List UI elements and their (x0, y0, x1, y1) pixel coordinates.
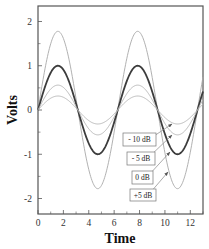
chart: 024681012-2-1012 - 10 dB- 5 dB0 dB+5 dB … (0, 0, 209, 249)
series-line-0dbdb (38, 66, 203, 155)
x-tick-label: 6 (112, 218, 117, 228)
x-tick-label: 2 (61, 218, 66, 228)
x-tick-label: 8 (137, 218, 142, 228)
x-tick-label: 0 (36, 218, 41, 228)
y-tick-label: 0 (27, 105, 32, 115)
y-tick-label: -1 (24, 150, 32, 160)
x-tick-label: 12 (186, 218, 196, 228)
series-line-5dbdb (38, 31, 203, 188)
y-tick-label: 2 (27, 17, 32, 27)
x-tick-label: 4 (86, 218, 91, 228)
annotation-text: +5 dB (134, 191, 153, 200)
annotation-text: 0 dB (135, 173, 149, 182)
x-axis-title: Time (105, 231, 136, 246)
series-layer (38, 31, 203, 188)
annotation-text: - 5 dB (132, 154, 151, 163)
y-axis-title: Volts (5, 95, 20, 125)
x-tick-label: 10 (160, 218, 170, 228)
y-tick-label: -2 (24, 194, 32, 204)
annotation-text: - 10 dB (128, 135, 151, 144)
y-tick-label: 1 (27, 61, 32, 71)
